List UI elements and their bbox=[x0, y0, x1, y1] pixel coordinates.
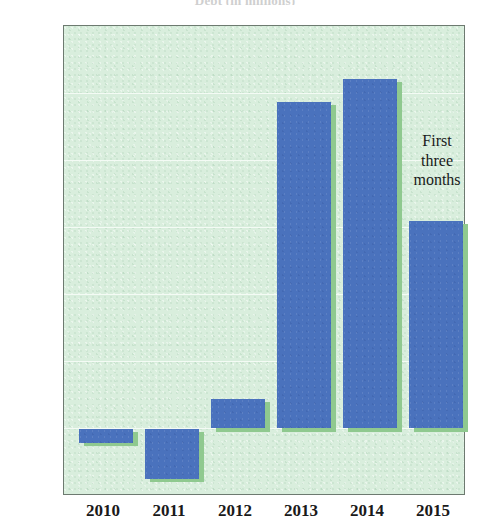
gridline-20 bbox=[64, 361, 464, 362]
annotation-line-1: First bbox=[400, 131, 474, 151]
xtick-label-2014: 2014 bbox=[332, 501, 402, 521]
bar-2014[interactable] bbox=[343, 79, 397, 428]
gridline-40 bbox=[64, 294, 464, 295]
bar-2015[interactable] bbox=[409, 221, 463, 428]
xtick-label-2011: 2011 bbox=[134, 501, 204, 521]
xtick-label-2012: 2012 bbox=[200, 501, 270, 521]
annotation-line-2: three bbox=[400, 151, 474, 171]
bar-2012[interactable] bbox=[211, 399, 265, 428]
annotation-first-three-months: First three months bbox=[400, 131, 474, 190]
annotation-line-3: months bbox=[400, 170, 474, 190]
bar-2011[interactable] bbox=[145, 429, 199, 479]
gridline-100 bbox=[64, 93, 464, 94]
plot-area: First three months bbox=[63, 25, 465, 495]
xtick-label-2010: 2010 bbox=[68, 501, 138, 521]
bar-2010[interactable] bbox=[79, 429, 133, 443]
chart-title: Debt (in millions) bbox=[0, 0, 490, 5]
bar-2013[interactable] bbox=[277, 102, 331, 428]
gridline-60 bbox=[64, 227, 464, 228]
xtick-label-2013: 2013 bbox=[266, 501, 336, 521]
xtick-label-2015: 2015 bbox=[398, 501, 468, 521]
